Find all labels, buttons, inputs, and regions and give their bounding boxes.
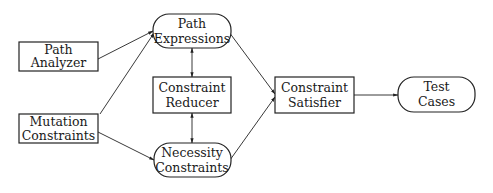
node-label-line2: Analyzer xyxy=(30,55,87,70)
node-label-line1: Mutation xyxy=(30,114,88,129)
edge-necessity-to-satisfier xyxy=(230,97,275,160)
node-test-cases: Test Cases xyxy=(398,77,475,112)
node-label-line1: Necessity xyxy=(161,145,224,160)
node-label-line1: Constraint xyxy=(158,80,225,95)
node-label-line1: Test xyxy=(423,79,449,94)
node-path-analyzer: Path Analyzer xyxy=(19,42,98,71)
node-label-line1: Path xyxy=(178,16,206,31)
node-path-expressions: Path Expressions xyxy=(153,14,231,48)
node-label-line2: Constraints xyxy=(155,160,229,175)
node-label-line2: Constraints xyxy=(22,128,96,143)
edge-path-expressions-to-satisfier xyxy=(229,32,275,94)
node-necessity-constraints: Necessity Constraints xyxy=(154,143,231,177)
edge-mutation-to-necessity xyxy=(98,132,154,160)
flow-diagram: Path Analyzer Mutation Constraints Path … xyxy=(0,0,493,193)
node-label-line1: Constraint xyxy=(281,80,348,95)
node-label-line2: Reducer xyxy=(165,95,218,110)
edge-mutation-to-path-expressions xyxy=(100,33,154,114)
node-constraint-satisfier: Constraint Satisfier xyxy=(275,77,354,113)
node-mutation-constraints: Mutation Constraints xyxy=(19,114,98,143)
edge-path-analyzer-to-path-expressions xyxy=(98,31,153,59)
node-label-line2: Cases xyxy=(418,94,455,109)
node-constraint-reducer: Constraint Reducer xyxy=(153,77,231,113)
node-label-line2: Satisfier xyxy=(288,95,341,110)
node-label-line2: Expressions xyxy=(154,31,230,46)
